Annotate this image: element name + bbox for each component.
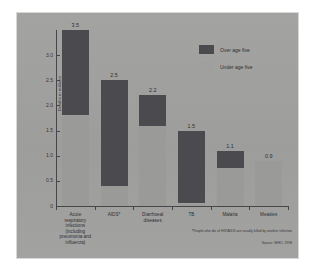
x-tick-mark [95, 206, 96, 210]
y-tick-label: 3.0 [33, 53, 53, 58]
chart-plate: Deaths in millions 00.51.01.52.02.53.0 3… [17, 13, 298, 258]
bar-5: 1.1 [217, 151, 244, 206]
x-tick-mark [172, 206, 173, 210]
bar-value-label: 2.2 [129, 87, 176, 93]
x-tick-mark [56, 206, 57, 210]
y-tick-label: 2.0 [33, 103, 53, 108]
bar-segment-under-age-five [62, 116, 89, 207]
bar-value-label: 1.5 [168, 123, 215, 129]
x-tick-mark [249, 206, 250, 210]
category-label-1: Acuterespiratoryinfections(includingpneu… [56, 212, 95, 246]
chart-legend: Over age five Under age five [199, 45, 253, 79]
category-label-line: TB [172, 212, 211, 218]
bar-value-label: 3.5 [52, 22, 99, 28]
bar-segment-over-age-five [62, 30, 89, 115]
bar-segment-under-age-five [178, 204, 205, 207]
legend-swatch-over-icon [199, 45, 214, 54]
y-tick-label: 0 [33, 204, 53, 209]
bar-6: 0.9 [255, 161, 282, 206]
legend-item-over-age-five: Over age five [199, 45, 253, 54]
bar-1: 3.5 [62, 30, 89, 206]
x-tick-mark [133, 206, 134, 210]
category-label-2: AIDS* [95, 212, 134, 218]
bar-value-label: 0.9 [245, 153, 292, 159]
category-label-line: Malaria [211, 212, 250, 218]
bar-value-label: 2.5 [91, 72, 138, 78]
category-label-4: TB [172, 212, 211, 218]
bar-3: 2.2 [139, 95, 166, 206]
bar-segment-over-age-five [217, 151, 244, 169]
bar-segment-under-age-five [217, 168, 244, 206]
bar-segment-over-age-five [139, 95, 166, 125]
bar-segment-under-age-five [101, 186, 128, 206]
category-label-line: Measles [249, 212, 288, 218]
bar-value-label: 1.1 [207, 143, 254, 149]
bar-segment-under-age-five [255, 161, 282, 206]
bar-segment-over-age-five [101, 80, 128, 186]
y-tick-label: 2.5 [33, 78, 53, 83]
legend-item-under-age-five: Under age five [199, 62, 253, 71]
bar-2: 2.5 [101, 80, 128, 206]
legend-swatch-under-icon [199, 62, 214, 71]
category-label-line: AIDS* [95, 212, 134, 218]
bar-segment-under-age-five [139, 126, 166, 206]
source-text: Source: WHO, 1998 [167, 241, 292, 245]
y-tick-label: 0.5 [33, 178, 53, 183]
bar-4: 1.5 [178, 131, 205, 206]
y-tick-label: 1.0 [33, 153, 53, 158]
legend-label-over: Over age five [220, 47, 250, 53]
legend-label-under: Under age five [220, 64, 253, 70]
bars-group: 3.52.52.21.51.10.9 [56, 30, 288, 206]
category-label-line: influenza) [56, 240, 95, 246]
category-label-5: Malaria [211, 212, 250, 218]
x-tick-mark [288, 206, 289, 210]
bar-segment-over-age-five [178, 131, 205, 204]
category-label-line: diseases [133, 218, 172, 224]
x-tick-mark [211, 206, 212, 210]
category-label-6: Measles [249, 212, 288, 218]
category-label-3: Diarrhoealdiseases [133, 212, 172, 223]
y-tick-label: 1.5 [33, 128, 53, 133]
footnote-text: *People who die of HIV/AIDS are usually … [167, 229, 292, 234]
chart-figure: Deaths in millions 00.51.01.52.02.53.0 3… [0, 0, 314, 269]
